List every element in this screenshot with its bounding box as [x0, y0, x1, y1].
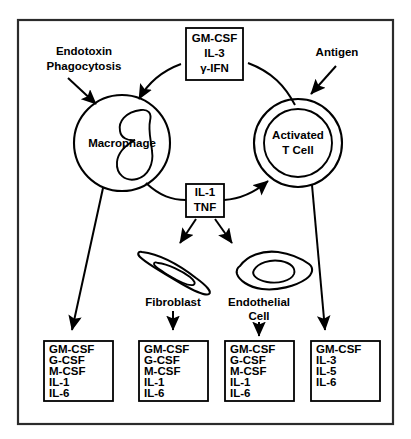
endothelial-label-line-1: Cell	[248, 310, 269, 322]
stimulus-antigen-label: Antigen	[316, 46, 359, 58]
output-box-endothelial-products: GM-CSF G-CSF M-CSF IL-1 IL-6	[225, 341, 294, 401]
endothelial-label-line-0: Endothelial	[228, 296, 290, 308]
output-box-tcell-products: GM-CSF IL-3 IL-5 IL-6	[311, 341, 380, 401]
arrow-top-cytokines-to-macrophage	[139, 64, 181, 99]
stimulus-endotoxin: Endotoxin Phagocytosis	[47, 45, 122, 104]
arrow-antigen-to-tcell	[311, 66, 336, 94]
arrow-tcell-to-products	[312, 185, 325, 330]
output-macrophage-item-4: IL-6	[49, 387, 69, 399]
arrow-endotoxin-to-macrophage	[68, 78, 96, 104]
fibroblast-membrane	[138, 252, 210, 295]
tcell-nucleus	[264, 109, 332, 177]
cell-endothelial: Endothelial Cell	[228, 252, 312, 336]
mediator-box-il1-tnf-item-1: TNF	[194, 201, 216, 213]
cell-activated-t-cell: Activated T Cell	[254, 99, 342, 187]
figure-canvas: Endotoxin Phagocytosis Antigen GM-CSF IL…	[0, 0, 411, 439]
mediator-box-top-item-1: IL-3	[204, 47, 224, 59]
output-box-fibroblast-products: GM-CSF G-CSF M-CSF IL-1 IL-6	[139, 341, 208, 401]
tcell-label-line-1: T Cell	[282, 144, 313, 156]
endothelial-nucleus	[253, 260, 294, 282]
stimulus-endotoxin-line-0: Endotoxin	[56, 45, 112, 57]
output-endothelial-item-4: IL-6	[230, 387, 250, 399]
cell-macrophage: Macrophage	[74, 95, 170, 191]
output-box-macrophage-products: GM-CSF G-CSF M-CSF IL-1 IL-6	[44, 341, 113, 401]
arrow-il1tnf-to-tcell	[224, 181, 268, 200]
fibroblast-label: Fibroblast	[145, 296, 201, 308]
mediator-box-il1-tnf-item-0: IL-1	[195, 186, 216, 198]
cell-fibroblast: Fibroblast	[138, 252, 210, 330]
mediator-box-top-item-0: GM-CSF	[192, 32, 237, 44]
mediator-box-il1-tnf: IL-1 TNF	[186, 184, 224, 217]
macrophage-label: Macrophage	[88, 137, 156, 149]
tcell-label-line-0: Activated	[272, 129, 324, 141]
arrow-il1tnf-to-endothelial	[215, 219, 232, 243]
stimulus-antigen: Antigen	[311, 46, 358, 94]
tcell-membrane	[254, 99, 342, 187]
endothelial-membrane	[237, 252, 313, 290]
stimulus-endotoxin-line-1: Phagocytosis	[47, 60, 122, 72]
curve-tcell-to-top-cytokines	[248, 63, 295, 105]
cytokine-network-diagram: Endotoxin Phagocytosis Antigen GM-CSF IL…	[0, 0, 411, 439]
mediator-box-top-cytokines: GM-CSF IL-3 γ-IFN	[186, 28, 243, 80]
arrow-macrophage-to-products	[72, 188, 103, 330]
output-fibroblast-item-4: IL-6	[144, 387, 164, 399]
output-tcell-item-3: IL-6	[316, 376, 336, 388]
arrow-il1tnf-to-fibroblast	[180, 219, 196, 243]
curve-macrophage-to-il1tnf	[146, 183, 186, 200]
mediator-box-top-item-2: γ-IFN	[200, 62, 229, 74]
